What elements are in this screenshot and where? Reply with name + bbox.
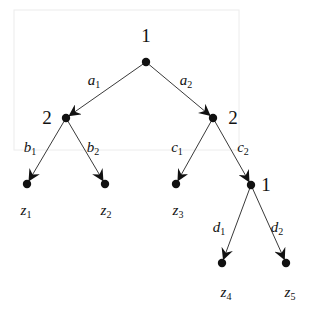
outcome-label-z1: z1 [20,202,32,220]
action-label-c2: c2 [237,139,249,157]
action-label-d1: d1 [213,219,226,237]
action-label-c1: c1 [171,139,183,157]
outcome-label-z2: z2 [100,202,112,220]
outcome-label-z5: z5 [284,284,296,302]
decision-node-n2a [62,114,70,122]
action-label-a2: a2 [180,72,193,90]
action-label-b2: b2 [87,139,100,157]
player-label-n2a: 2 [42,107,52,128]
player-label-n1b: 1 [261,174,271,195]
terminal-node-z2 [101,180,109,188]
terminal-node-z4 [218,259,226,267]
edge-a2 [146,62,210,115]
outcome-label-z3: z3 [172,202,184,220]
edge-a1 [69,62,146,116]
edge-c1 [178,118,213,181]
player-label-root: 1 [141,25,151,46]
decision-node-root [142,58,150,66]
action-label-a1: a1 [88,72,101,90]
terminal-node-z3 [172,180,180,188]
action-label-d2: d2 [271,219,284,237]
action-label-b1: b1 [24,139,37,157]
nodes-layer [23,58,290,267]
labels-layer: a1a2b1b2c1c2d1d21221z1z2z3z4z5 [20,25,296,302]
edge-d1 [223,185,251,259]
terminal-node-z1 [23,180,31,188]
terminal-node-z5 [282,259,290,267]
outcome-label-z4: z4 [220,284,232,302]
edge-d2 [251,185,284,259]
player-label-n2b: 2 [228,107,238,128]
background-grid-ghost [14,10,239,150]
decision-node-n2b [209,114,217,122]
decision-node-n1b [247,181,255,189]
game-tree-diagram: a1a2b1b2c1c2d1d21221z1z2z3z4z5 [0,0,310,314]
edges-layer [29,62,284,259]
